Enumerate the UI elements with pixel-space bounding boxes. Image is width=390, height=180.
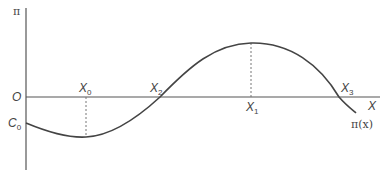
c0-sub: 0 — [17, 123, 21, 132]
y-axis-label: π — [13, 6, 20, 17]
x3-main: X — [341, 81, 349, 95]
profit-function-diagram: π O X C0 X0 X2 X1 X3 π(x) — [0, 0, 390, 180]
diagram-canvas — [0, 0, 390, 180]
x-axis-label: X — [368, 100, 376, 112]
x1-sub: 1 — [254, 107, 258, 116]
x3-sub: 3 — [349, 88, 353, 97]
x2-label: X2 — [150, 82, 162, 97]
x3-label: X3 — [341, 82, 353, 97]
x1-main: X — [246, 100, 254, 114]
x1-label: X1 — [246, 101, 258, 116]
c0-label: C0 — [8, 117, 21, 132]
x0-main: X — [79, 81, 87, 95]
x0-sub: 0 — [87, 88, 91, 97]
x2-sub: 2 — [158, 88, 162, 97]
origin-label: O — [12, 91, 21, 103]
profit-curve — [26, 43, 356, 137]
c0-main: C — [8, 116, 17, 130]
x0-label: X0 — [79, 82, 91, 97]
x2-main: X — [150, 81, 158, 95]
curve-label: π(x) — [351, 119, 373, 130]
